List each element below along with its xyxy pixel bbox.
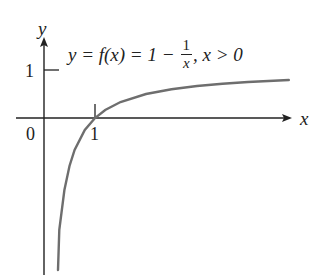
function-curve xyxy=(58,80,289,270)
fraction: 1 x xyxy=(181,38,193,71)
x-tick-label: 1 xyxy=(90,125,99,143)
equation-rhs: , x > 0 xyxy=(193,45,243,64)
equation-lhs: y = f(x) = 1 − xyxy=(68,45,175,64)
fraction-numerator: 1 xyxy=(181,38,193,55)
y-axis-label: y xyxy=(38,19,46,38)
origin-label: 0 xyxy=(26,125,35,143)
x-axis-label: x xyxy=(300,109,308,128)
equation-label: y = f(x) = 1 − 1 x , x > 0 xyxy=(68,38,243,71)
y-tick-label: 1 xyxy=(25,62,34,80)
fraction-denominator: x xyxy=(181,55,193,71)
